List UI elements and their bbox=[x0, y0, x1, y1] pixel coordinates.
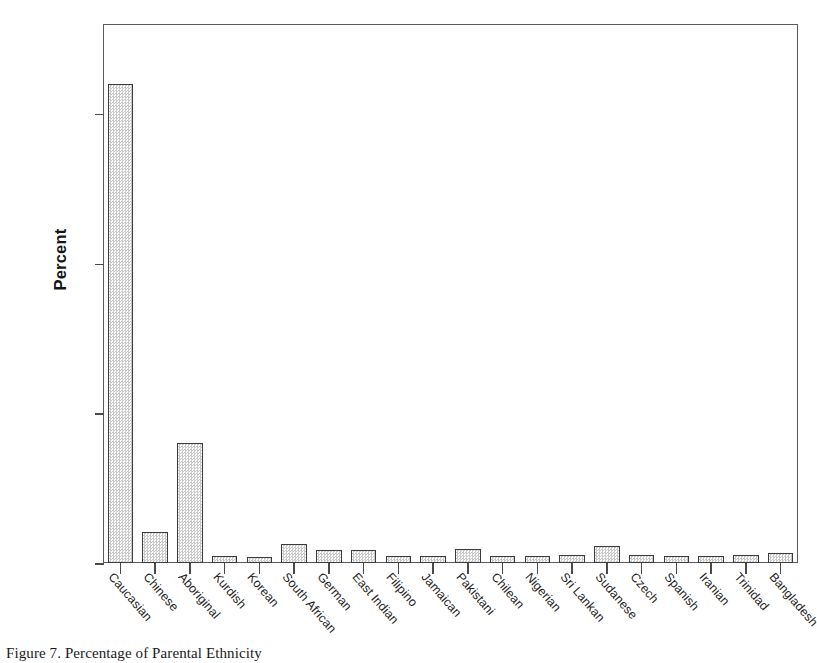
y-axis-title: Percent bbox=[51, 190, 70, 330]
x-axis-tick bbox=[189, 563, 191, 574]
bar-aboriginal bbox=[177, 443, 203, 563]
y-tick-mark bbox=[95, 413, 104, 415]
x-axis-tick bbox=[710, 563, 712, 574]
x-axis-tick bbox=[467, 563, 469, 574]
x-axis-tick bbox=[571, 563, 573, 574]
y-tick-mark bbox=[95, 563, 104, 565]
y-tick-mark bbox=[95, 114, 104, 116]
bar-sudanese bbox=[594, 546, 620, 563]
bar-nigerian bbox=[525, 556, 551, 563]
x-axis-tick bbox=[293, 563, 295, 574]
bar-east-indian bbox=[351, 550, 377, 563]
bar-filipino bbox=[386, 556, 412, 563]
x-axis-tick bbox=[154, 563, 156, 574]
bar-jamaican bbox=[420, 556, 446, 563]
x-axis-tick bbox=[224, 563, 226, 574]
bar-bangladesh bbox=[768, 553, 794, 563]
x-axis-tick bbox=[537, 563, 539, 574]
bar-trinidad bbox=[733, 555, 759, 563]
bar-sri-lankan bbox=[559, 555, 585, 563]
bar-caucasian bbox=[108, 84, 134, 563]
x-axis-label: Czech bbox=[627, 570, 661, 606]
x-axis-label: Trinidad bbox=[731, 570, 771, 613]
y-tick-mark bbox=[95, 264, 104, 266]
x-axis-tick bbox=[606, 563, 608, 574]
x-axis-tick bbox=[676, 563, 678, 574]
bar-czech bbox=[629, 555, 655, 563]
bar-german bbox=[316, 550, 342, 563]
x-axis-tick bbox=[432, 563, 434, 574]
figure-caption: Figure 7. Percentage of Parental Ethnici… bbox=[6, 645, 262, 662]
bar-south-african bbox=[281, 544, 307, 563]
bar-kurdish bbox=[212, 556, 238, 563]
bar-korean bbox=[247, 557, 273, 563]
x-axis-tick bbox=[641, 563, 643, 574]
x-axis-tick bbox=[328, 563, 330, 574]
bar-iranian bbox=[698, 556, 724, 563]
x-axis-tick bbox=[259, 563, 261, 574]
x-axis-tick bbox=[120, 563, 122, 574]
bar-chinese bbox=[142, 532, 168, 563]
x-axis-tick bbox=[398, 563, 400, 574]
x-axis-tick bbox=[502, 563, 504, 574]
x-axis-label: Korean bbox=[245, 570, 282, 610]
x-axis-tick bbox=[780, 563, 782, 574]
x-axis-label: Bangladesh bbox=[766, 570, 817, 629]
x-axis-tick bbox=[745, 563, 747, 574]
bar-pakistani bbox=[455, 549, 481, 563]
bar-chilean bbox=[490, 556, 516, 563]
figure-container: Percent 0.0%20.0%40.0%60.0% CaucasianChi… bbox=[0, 0, 817, 663]
x-axis-tick bbox=[363, 563, 365, 574]
x-axis-label: Spanish bbox=[662, 570, 702, 614]
x-axis-label: Iranian bbox=[697, 570, 733, 608]
plot-frame bbox=[103, 24, 798, 563]
x-axis-label: Nigerian bbox=[523, 570, 564, 615]
bar-spanish bbox=[664, 556, 690, 563]
